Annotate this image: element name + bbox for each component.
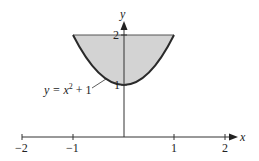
x-tick-label: 1 bbox=[171, 141, 177, 155]
y-axis-arrow-icon bbox=[121, 21, 128, 30]
x-axis-arrow-icon bbox=[229, 134, 238, 141]
x-tick-label: −1 bbox=[66, 141, 79, 155]
x-axis-label: x bbox=[239, 130, 246, 144]
curve-label-leader bbox=[92, 79, 106, 88]
y-tick-label: 2 bbox=[113, 28, 119, 42]
chart: −2 −1 1 2 1 2 x y y = x2 + 1 bbox=[0, 0, 259, 161]
x-tick-label: −2 bbox=[15, 141, 28, 155]
y-tick-label: 1 bbox=[114, 78, 120, 92]
y-axis-label: y bbox=[119, 7, 126, 21]
curve-label: y = x2 + 1 bbox=[43, 82, 92, 97]
x-tick-label: 2 bbox=[222, 141, 228, 155]
